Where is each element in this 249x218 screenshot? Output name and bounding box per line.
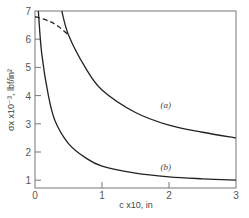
y-tick-label: 7 <box>25 6 31 17</box>
x-tick-label: 1 <box>99 190 105 201</box>
curves <box>35 11 236 180</box>
curve-label: (a) <box>160 100 171 110</box>
x-tick-label: 3 <box>233 190 239 201</box>
plot-frame <box>35 11 236 188</box>
axis-ticks: 01231234567 <box>25 6 239 201</box>
x-axis-title: c x10, in <box>119 200 153 210</box>
y-tick-label: 1 <box>25 175 31 186</box>
x-tick-label: 0 <box>32 190 38 201</box>
y-tick-label: 5 <box>25 62 31 73</box>
y-tick-label: 4 <box>25 91 31 102</box>
y-tick-label: 2 <box>25 147 31 158</box>
curve-label: (b) <box>160 162 171 172</box>
x-tick-label: 2 <box>166 190 172 201</box>
y-tick-label: 3 <box>25 119 31 130</box>
curve-labels: (a)(b) <box>160 100 171 172</box>
stress-chart: 01231234567 (a)(b) c x10, in σx x10⁻³, l… <box>0 0 249 218</box>
plot-border <box>35 11 236 188</box>
curve-b <box>38 11 236 180</box>
curve-a <box>62 11 236 138</box>
y-axis-title: σx x10⁻³, lbf/in² <box>6 69 16 131</box>
y-tick-label: 6 <box>25 34 31 45</box>
